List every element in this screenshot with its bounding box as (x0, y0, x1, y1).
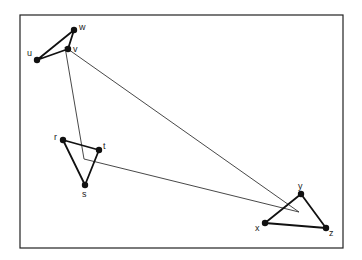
diagram-canvas: wvurtsyxz (0, 0, 362, 260)
triangle-uvw (37, 30, 74, 60)
label-v: v (73, 44, 78, 54)
connector-triangle-shape (65, 47, 299, 212)
label-r: r (54, 132, 57, 142)
label-y: y (298, 181, 303, 191)
label-t: t (103, 141, 106, 151)
point-v (65, 46, 71, 52)
point-x (262, 220, 268, 226)
label-x: x (255, 223, 260, 233)
triangle-rst (63, 140, 99, 185)
point-w (71, 27, 77, 33)
point-t (96, 147, 102, 153)
point-u (34, 57, 40, 63)
label-w: w (78, 22, 86, 32)
point-s (82, 182, 88, 188)
connector-triangle (65, 47, 299, 212)
label-s: s (82, 189, 87, 199)
label-z: z (329, 228, 334, 238)
point-y (298, 191, 304, 197)
label-u: u (27, 48, 32, 58)
point-r (60, 137, 66, 143)
